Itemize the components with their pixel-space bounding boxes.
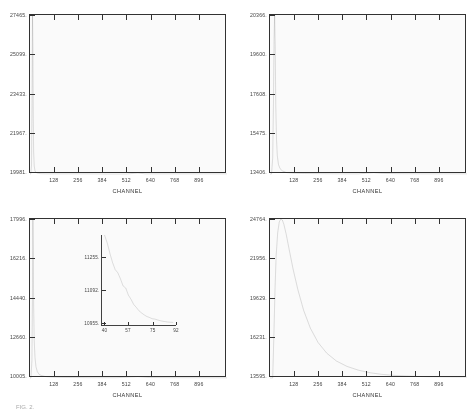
inset-y-tick-label: 11092. [85,287,100,292]
x-tick-label: 896 [194,177,203,183]
y-tick-label: 23433. [10,91,27,97]
y-tick-label: 21967. [10,130,27,136]
x-tick-label: 512 [122,177,131,183]
panel-c: C 128 256 384 512 640 768 896 20366. [238,0,476,204]
y-tick-label: 27465. [10,12,27,18]
plot-area-d: 128 256 384 512 640 768 896 24764. 21956… [269,218,466,377]
y-tick-label: 17608. [250,91,267,97]
x-axis-title: CHANNEL [113,392,143,398]
inset-x-tick-label: 75 [150,328,156,333]
x-tick-label: 512 [122,381,131,387]
y-tick-label: 15475. [250,130,267,136]
inset-decay-curve [102,235,177,326]
x-tick-label: 256 [73,177,82,183]
x-tick-label: 896 [434,177,443,183]
x-axis-title: CHANNEL [353,392,383,398]
y-tick-label: 13406. [250,169,267,175]
x-tick-label: 384 [338,177,347,183]
x-tick-label: 128 [49,177,58,183]
spectrum-curve-a [30,15,227,174]
x-tick-label: 768 [410,381,419,387]
x-tick-label: 384 [98,177,107,183]
y-tick-label: 21956. [250,255,267,261]
y-tick-label: 19600. [250,51,267,57]
x-tick-label: 640 [146,177,155,183]
y-tick-label: 25099. [10,51,27,57]
x-tick-label: 640 [386,381,395,387]
inset-y-tick-label: 11255. [85,254,100,259]
y-tick-label: 10005. [10,373,27,379]
x-axis-title: CHANNEL [353,188,383,194]
x-tick-label: 640 [146,381,155,387]
y-tick-label: 19629. [250,295,267,301]
x-tick-label: 128 [289,381,298,387]
spectrum-curve-c [270,15,467,174]
x-tick-label: 384 [98,381,107,387]
x-tick-label: 384 [338,381,347,387]
x-tick-label: 896 [194,381,203,387]
x-tick-label: 128 [289,177,298,183]
x-tick-label: 768 [170,177,179,183]
y-tick-label: 16231. [250,334,267,340]
panel-b: B 128 256 384 512 640 768 896 17996. [0,204,238,408]
spectrum-curve-d [270,219,467,378]
inset-x-tick-label: 40 [102,328,108,333]
figure-caption: FIG. 2. [16,404,34,410]
inset-plot-area: 11255. 11092. 10955. 40 57 75 92 [101,235,176,326]
y-tick-label: 14440. [10,295,27,301]
y-tick-label: 12660. [10,334,27,340]
y-tick-label: 19981. [10,169,27,175]
y-tick-label: 16216. [10,255,27,261]
inset-plot-b: 11255. 11092. 10955. 40 57 75 92 [75,235,176,339]
x-tick-label: 256 [313,177,322,183]
x-tick-label: 512 [362,177,371,183]
y-tick-label: 24764. [250,216,267,222]
inset-x-tick-label: 57 [125,328,131,333]
x-tick-label: 128 [49,381,58,387]
plot-area-a: 128 256 384 512 640 768 896 27465. 25099… [29,14,226,173]
x-tick-label: 896 [434,381,443,387]
panel-d: D 128 256 384 512 640 768 896 24764. [238,204,476,408]
x-tick-label: 768 [170,381,179,387]
x-axis-title: CHANNEL [113,188,143,194]
plot-area-b: 128 256 384 512 640 768 896 17996. 16216… [29,218,226,377]
plot-area-c: 128 256 384 512 640 768 896 20366. 19600… [269,14,466,173]
y-tick-label: 13595. [250,373,267,379]
y-tick-label: 17996. [10,216,27,222]
x-tick-label: 640 [386,177,395,183]
x-tick-label: 256 [73,381,82,387]
x-tick-label: 512 [362,381,371,387]
x-tick-label: 768 [410,177,419,183]
inset-y-tick-label: 10955. [84,321,99,326]
x-tick-label: 256 [313,381,322,387]
inset-x-tick-label: 92 [173,328,179,333]
y-tick-label: 20366. [250,12,267,18]
panel-a: A 128 256 384 512 640 768 896 27465. [0,0,238,204]
